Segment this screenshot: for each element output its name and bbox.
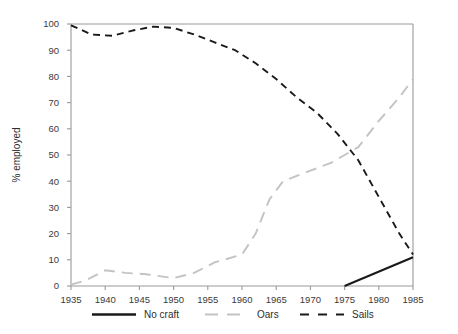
series-line-no-craft <box>345 257 413 286</box>
y-axis-tick-marks <box>67 24 71 286</box>
legend-label-sails: Sails <box>352 309 374 320</box>
chart-legend: No craftOarsSails <box>92 309 374 320</box>
x-tick-label: 1985 <box>402 294 423 305</box>
x-tick-label: 1940 <box>95 294 116 305</box>
x-tick-label: 1980 <box>368 294 389 305</box>
legend-label-oars: Oars <box>257 309 279 320</box>
y-tick-label: 20 <box>48 228 59 239</box>
data-series-group <box>71 25 413 286</box>
y-tick-label: 50 <box>48 149 59 160</box>
x-axis-tick-labels: 1935194019451950195519601965197019751980… <box>60 294 423 305</box>
x-tick-label: 1950 <box>163 294 184 305</box>
x-tick-label: 1960 <box>231 294 252 305</box>
legend-label-no-craft: No craft <box>144 309 179 320</box>
y-tick-label: 60 <box>48 123 59 134</box>
x-tick-label: 1970 <box>300 294 321 305</box>
x-tick-label: 1975 <box>334 294 355 305</box>
chart-container: 0102030405060708090100 19351940194519501… <box>0 0 458 334</box>
y-axis-tick-labels: 0102030405060708090100 <box>43 18 59 291</box>
x-axis-tick-marks <box>71 286 413 290</box>
y-tick-label: 0 <box>54 280 59 291</box>
y-tick-label: 90 <box>48 45 59 56</box>
x-tick-label: 1965 <box>266 294 287 305</box>
y-tick-label: 40 <box>48 176 59 187</box>
x-tick-label: 1945 <box>129 294 150 305</box>
line-chart: 0102030405060708090100 19351940194519501… <box>0 0 458 334</box>
y-axis-title: % employed <box>11 127 22 182</box>
y-tick-label: 100 <box>43 18 59 29</box>
x-tick-label: 1955 <box>197 294 218 305</box>
y-tick-label: 10 <box>48 254 59 265</box>
series-line-oars <box>71 79 413 285</box>
x-tick-label: 1935 <box>60 294 81 305</box>
y-tick-label: 80 <box>48 71 59 82</box>
series-line-sails <box>71 25 413 254</box>
y-tick-label: 70 <box>48 97 59 108</box>
y-tick-label: 30 <box>48 202 59 213</box>
